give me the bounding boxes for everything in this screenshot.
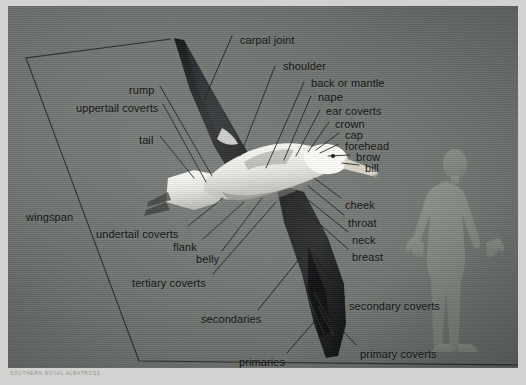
label-primaries: primaries [239,356,285,368]
albatross-photograph: carpal jointshoulderback or mantlenapeea… [8,6,518,368]
label-breast: breast [352,251,383,263]
label-ear-coverts: ear coverts [326,105,382,117]
label-secondaries: secondaries [201,313,261,325]
figure-plate: carpal jointshoulderback or mantlenapeea… [0,0,526,385]
label-wingspan: wingspan [26,211,73,223]
label-back-or-mantle: back or mantle [311,77,385,89]
label-bill: bill [365,162,379,174]
illustration-layer [8,6,518,368]
figure-caption: SOUTHERN ROYAL ALBATROSS [10,371,101,376]
label-primary-coverts: primary coverts [360,348,437,360]
label-flank: flank [173,241,197,253]
label-shoulder: shoulder [283,60,326,72]
label-uppertail-coverts: uppertail coverts [76,102,158,114]
label-undertail-coverts: undertail coverts [96,228,178,240]
label-carpal-joint: carpal joint [240,34,294,46]
label-secondary-coverts: secondary coverts [349,300,440,312]
label-belly: belly [196,253,219,265]
label-tertiary-coverts: tertiary coverts [132,277,206,289]
label-cheek: cheek [345,199,375,211]
label-throat: throat [348,217,377,229]
label-tail: tail [139,134,153,146]
label-nape: nape [318,91,343,103]
label-neck: neck [352,234,376,246]
label-rump: rump [129,84,154,96]
